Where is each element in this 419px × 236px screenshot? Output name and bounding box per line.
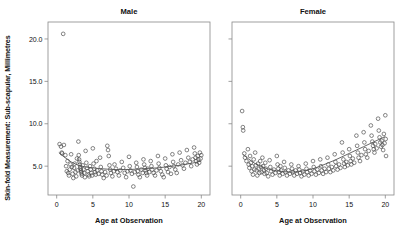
x-tick-label: 0 — [239, 201, 243, 208]
x-tick-label: 10 — [125, 201, 133, 208]
panel-title-female: Female — [232, 7, 394, 16]
y-tick-label: 10.0 — [29, 120, 43, 127]
panel-female: 05101520 — [229, 22, 395, 208]
x-tick-label: 20 — [197, 201, 205, 208]
scatter-plot-svg: 051015205.010.015.020.005101520 — [0, 0, 419, 236]
x-tick-label: 0 — [55, 201, 59, 208]
x-axis-label-female: Age at Observation — [232, 216, 394, 225]
panel-male: 051015205.010.015.020.0 — [29, 22, 210, 208]
x-tick-label: 15 — [345, 201, 353, 208]
y-axis-label: Skin-fold Measurement: Sub-scapular, Mil… — [0, 0, 15, 236]
y-tick-label: 20.0 — [29, 36, 43, 43]
x-tick-label: 10 — [309, 201, 317, 208]
y-tick-label: 5.0 — [33, 163, 43, 170]
x-tick-label: 20 — [381, 201, 389, 208]
panel-title-male: Male — [48, 7, 210, 16]
x-tick-label: 5 — [91, 201, 95, 208]
x-tick-label: 15 — [161, 201, 169, 208]
figure-container: Skin-fold Measurement: Sub-scapular, Mil… — [0, 0, 419, 236]
y-tick-label: 15.0 — [29, 78, 43, 85]
x-tick-label: 5 — [275, 201, 279, 208]
x-axis-label-male: Age at Observation — [48, 216, 210, 225]
